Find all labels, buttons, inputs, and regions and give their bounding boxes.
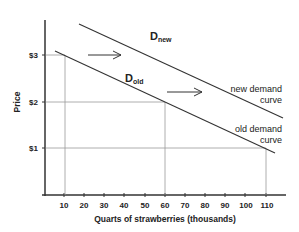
x-tick-label: 30 (100, 201, 109, 210)
x-tick-label: 110 (261, 201, 274, 210)
reference-guides (45, 55, 266, 195)
svg-text:old demand: old demand (235, 124, 282, 134)
shift-arrow-icon (167, 88, 202, 96)
x-tick-label: 40 (120, 201, 129, 210)
shift-arrow-icon (88, 51, 121, 59)
old-demand-annotation: old demand curve (235, 124, 282, 145)
y-tick-label: $3 (29, 51, 38, 60)
x-tick-label: 10 (60, 201, 69, 210)
new-demand-curve (79, 24, 283, 118)
x-tick-label: 60 (161, 201, 170, 210)
y-tick-label: $1 (29, 144, 38, 153)
svg-text:new demand: new demand (230, 84, 282, 94)
new-demand-label: Dnew (150, 30, 172, 43)
x-tick-label: 70 (181, 201, 190, 210)
x-tick-label: 100 (239, 201, 253, 210)
demand-shift-chart: 10 20 30 40 50 60 70 80 90 100 110 $3 $2… (0, 0, 299, 232)
y-axis-label: Price (12, 91, 22, 112)
y-tick-label: $2 (29, 98, 38, 107)
x-tick-label: 50 (141, 201, 150, 210)
old-demand-label: Dold (125, 72, 143, 85)
x-tick-labels: 10 20 30 40 50 60 70 80 90 100 110 (60, 201, 274, 210)
new-demand-annotation: new demand curve (230, 84, 282, 105)
svg-text:curve: curve (260, 95, 282, 105)
x-axis-label: Quarts of strawberries (thousands) (94, 214, 236, 224)
x-tick-label: 20 (80, 201, 89, 210)
x-tick-label: 90 (221, 201, 230, 210)
x-tick-label: 80 (201, 201, 210, 210)
y-tick-labels: $3 $2 $1 (29, 51, 38, 153)
svg-text:curve: curve (260, 135, 282, 145)
